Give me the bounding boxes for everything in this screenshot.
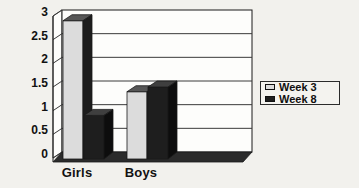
y-tick-label: 2.5 <box>31 29 48 43</box>
y-tick-label: 3 <box>41 5 48 19</box>
bar-front-boys-week-8 <box>148 87 168 159</box>
bar-front-girls-week-8 <box>84 115 104 159</box>
bar-chart: 00.511.522.53 Girls Boys Week 3 Week 8 <box>0 0 359 188</box>
y-tick-label: 0.5 <box>31 123 48 137</box>
bar-side-boys-week-8 <box>168 81 177 159</box>
bar-front-girls-week-3 <box>63 21 83 159</box>
y-tick-label: 1.5 <box>31 76 48 90</box>
bar-front-boys-week-3 <box>127 92 147 159</box>
legend: Week 3 Week 8 <box>260 81 340 105</box>
x-category-label-boys: Boys <box>118 165 164 180</box>
bar-side-girls-week-8 <box>104 109 113 159</box>
y-tick-label: 0 <box>41 147 48 161</box>
legend-item-week-8: Week 8 <box>265 94 339 105</box>
legend-swatch-week-8 <box>265 96 275 102</box>
legend-label-week-3: Week 3 <box>279 82 317 93</box>
legend-swatch-week-3 <box>265 84 275 90</box>
legend-label-week-8: Week 8 <box>279 94 317 105</box>
x-category-label-girls: Girls <box>54 165 100 180</box>
y-tick-label: 2 <box>41 52 48 66</box>
y-tick-label: 1 <box>41 100 48 114</box>
legend-item-week-3: Week 3 <box>265 82 339 93</box>
